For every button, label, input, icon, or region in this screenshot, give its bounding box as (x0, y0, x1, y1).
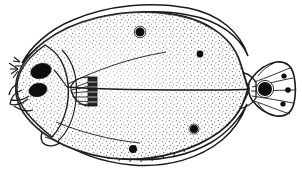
anal-fin-ocellus-posterior (189, 124, 199, 134)
fish-illustration-canvas (0, 0, 302, 173)
dorsal-fin-spot-posterior (197, 51, 204, 58)
fish-illustration-figure (0, 0, 302, 173)
caudal-fin-ocellus-central (256, 80, 273, 97)
caudal-fin-spot-upper (281, 73, 286, 78)
caudal-fin-spot-middle (285, 87, 291, 93)
dorsal-fin-ocellus-anterior (134, 26, 146, 38)
caudal-fin-spot-lower (280, 101, 285, 106)
body (16, 12, 248, 159)
anal-fin-spot-anterior (129, 145, 137, 153)
